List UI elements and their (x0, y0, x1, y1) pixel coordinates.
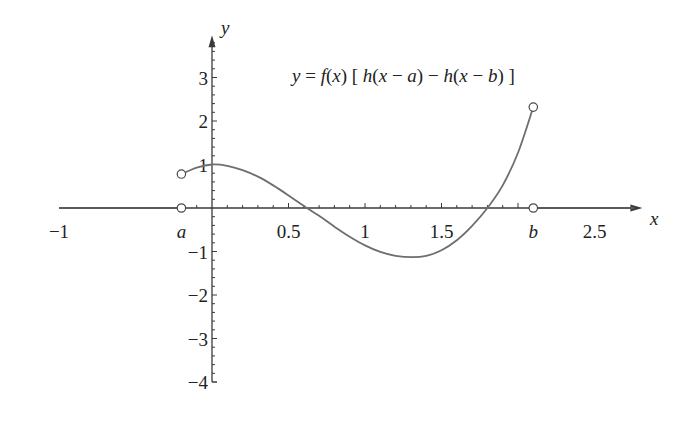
formula-part: ) − (417, 65, 444, 87)
ticks (197, 43, 518, 382)
x-tick-label: a (177, 221, 187, 242)
y-tick-label: 3 (199, 68, 209, 89)
y-tick-label: −2 (188, 285, 208, 306)
open-circle-marker (177, 204, 185, 212)
function-curve (181, 107, 533, 257)
chart-plot: −1a0.511.5b2.5321−1−2−3−4 x y y = f(x) [… (0, 0, 694, 422)
formula-part: a (407, 65, 417, 86)
x-tick-label: 2.5 (583, 221, 607, 242)
x-tick-label: b (529, 221, 539, 242)
y-axis-label: y (219, 17, 230, 38)
x-axis-label: x (649, 208, 659, 229)
formula-part: h (443, 65, 453, 86)
formula-part: − (387, 65, 407, 86)
formula-annotation: y = f(x) [ h(x − a) − h(x − b) ] (290, 65, 515, 87)
formula-part: ) ] (497, 65, 514, 87)
series (59, 107, 634, 257)
x-tick-label: 0.5 (277, 221, 301, 242)
tick-labels: −1a0.511.5b2.5321−1−2−3−4 (49, 68, 606, 394)
formula-part: ) [ (341, 65, 363, 87)
y-axis-arrow-icon (209, 35, 216, 47)
formula-part: y (290, 65, 301, 86)
x-tick-label: 1 (360, 221, 370, 242)
open-circle-marker (529, 204, 537, 212)
formula-part: b (488, 65, 498, 86)
open-circle-marker (529, 103, 537, 111)
formula-part: = (300, 65, 320, 86)
y-tick-label: −3 (188, 329, 208, 350)
y-tick-label: 2 (199, 111, 209, 132)
open-circle-marker (177, 170, 185, 178)
y-tick-label: −4 (188, 372, 209, 393)
y-tick-label: −1 (188, 242, 208, 263)
formula-part: − (468, 65, 488, 86)
formula-part: h (363, 65, 373, 86)
open-points (177, 103, 537, 212)
x-tick-label: 1.5 (430, 221, 454, 242)
x-tick-label: −1 (49, 221, 69, 242)
